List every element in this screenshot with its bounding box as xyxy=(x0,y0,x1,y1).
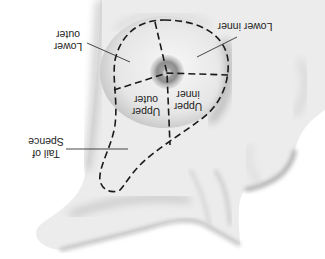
label-upper-inner-2: inner xyxy=(176,89,200,101)
breast-quadrants-diagram: Lower outer Lower inner Upper outer Uppe… xyxy=(0,0,325,259)
label-upper-outer-1: Upper xyxy=(131,106,160,118)
label-upper-outer-2: outer xyxy=(134,94,158,106)
label-lower-inner: Lower inner xyxy=(217,21,272,33)
label-tail-of-spence-2: Spence xyxy=(28,136,64,148)
diagram-canvas: Lower outer Lower inner Upper outer Uppe… xyxy=(0,0,325,259)
label-upper-inner-1: Upper xyxy=(173,101,202,113)
label-lower-outer-2: outer xyxy=(56,29,80,41)
label-tail-of-spence-1: Tail of xyxy=(32,148,60,160)
label-lower-outer-1: Lower xyxy=(53,41,82,53)
areola xyxy=(150,55,184,89)
